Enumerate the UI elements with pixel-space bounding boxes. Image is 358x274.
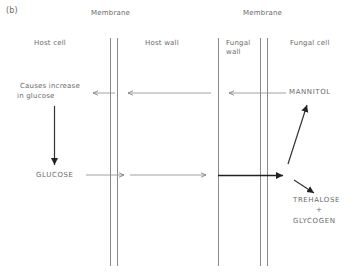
diagram-canvas bbox=[0, 0, 358, 274]
arrow-to-mannitol bbox=[288, 105, 307, 164]
arrow-to-trehalose-glycogen bbox=[294, 180, 314, 193]
